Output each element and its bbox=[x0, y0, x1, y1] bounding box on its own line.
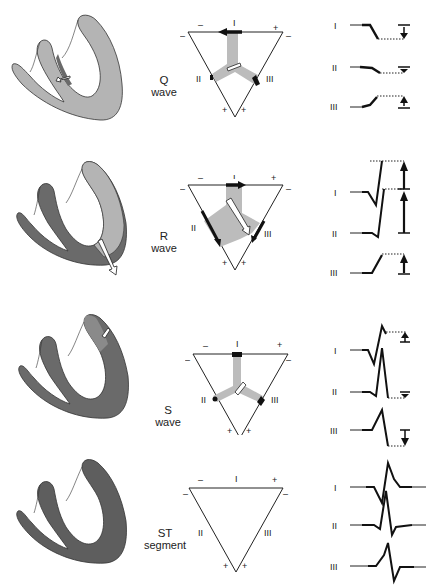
heart-cross-section-r bbox=[0, 145, 140, 280]
row-q-wave: Q wave I II III – + – – + + I II III bbox=[0, 0, 435, 140]
svg-text:II: II bbox=[198, 528, 203, 538]
svg-text:–: – bbox=[183, 489, 188, 499]
svg-text:III: III bbox=[330, 268, 338, 278]
svg-text:–: – bbox=[286, 31, 291, 41]
svg-text:–: – bbox=[198, 20, 203, 30]
einthoven-triangle-s: I II III – + – – + + bbox=[185, 330, 305, 435]
svg-text:+: + bbox=[246, 426, 251, 435]
svg-text:III: III bbox=[271, 395, 279, 405]
svg-text:III: III bbox=[330, 426, 338, 436]
row-st-segment: ST segment I II III – + – – + + I II III bbox=[0, 445, 435, 583]
svg-text:+: + bbox=[273, 23, 278, 33]
svg-text:–: – bbox=[198, 475, 203, 485]
svg-text:+: + bbox=[227, 426, 232, 435]
svg-text:–: – bbox=[286, 355, 291, 365]
svg-text:+: + bbox=[241, 105, 246, 115]
svg-text:I: I bbox=[334, 21, 337, 31]
svg-text:III: III bbox=[330, 102, 338, 112]
ecg-leads-q: I II III bbox=[320, 15, 435, 115]
svg-text:+: + bbox=[272, 475, 277, 485]
einthoven-triangle-q: I II III – + – – + + bbox=[180, 20, 300, 125]
row-r-wave: R wave I II III – + – – + + I II bbox=[0, 145, 435, 285]
svg-text:III: III bbox=[266, 74, 274, 84]
svg-text:I: I bbox=[334, 483, 337, 493]
caption-q-wave: Q wave bbox=[146, 74, 182, 98]
svg-text:I: I bbox=[233, 20, 236, 28]
svg-text:–: – bbox=[185, 355, 190, 365]
svg-text:I: I bbox=[233, 175, 236, 181]
svg-text:–: – bbox=[198, 175, 203, 183]
svg-text:–: – bbox=[180, 31, 185, 41]
einthoven-triangle-r: I II III – + – – + + bbox=[180, 175, 300, 280]
caption-s-wave: S wave bbox=[150, 404, 186, 428]
svg-text:II: II bbox=[201, 395, 206, 405]
svg-text:II: II bbox=[332, 63, 337, 73]
ecg-leads-s: I II III bbox=[320, 320, 435, 450]
svg-text:II: II bbox=[332, 229, 337, 239]
svg-text:III: III bbox=[264, 229, 272, 239]
svg-text:+: + bbox=[271, 175, 276, 183]
svg-text:–: – bbox=[203, 341, 208, 351]
svg-text:II: II bbox=[332, 387, 337, 397]
svg-text:+: + bbox=[242, 561, 247, 571]
svg-text:–: – bbox=[283, 489, 288, 499]
svg-text:I: I bbox=[236, 339, 239, 349]
svg-text:I: I bbox=[334, 346, 337, 356]
ecg-leads-st: I II III bbox=[320, 453, 435, 588]
svg-text:+: + bbox=[223, 561, 228, 571]
svg-text:II: II bbox=[191, 223, 196, 233]
row-s-wave: S wave I II III – + – – + + I II III bbox=[0, 300, 435, 440]
heart-cross-section-s bbox=[0, 300, 140, 430]
svg-text:II: II bbox=[332, 521, 337, 531]
svg-text:+: + bbox=[222, 105, 227, 115]
svg-text:+: + bbox=[241, 258, 246, 268]
svg-text:I: I bbox=[334, 188, 337, 198]
svg-text:+: + bbox=[277, 340, 282, 350]
svg-text:I: I bbox=[235, 474, 238, 484]
svg-text:–: – bbox=[180, 184, 185, 194]
einthoven-triangle-st: I II III – + – – + + bbox=[180, 470, 300, 575]
ecg-leads-r: I II III bbox=[320, 155, 435, 285]
svg-text:III: III bbox=[330, 562, 338, 572]
heart-cross-section-st bbox=[0, 445, 140, 580]
svg-text:+: + bbox=[222, 258, 227, 268]
caption-r-wave: R wave bbox=[146, 230, 182, 254]
heart-cross-section-q bbox=[0, 0, 140, 130]
svg-text:–: – bbox=[286, 184, 291, 194]
svg-text:III: III bbox=[264, 528, 272, 538]
svg-text:II: II bbox=[196, 74, 201, 84]
